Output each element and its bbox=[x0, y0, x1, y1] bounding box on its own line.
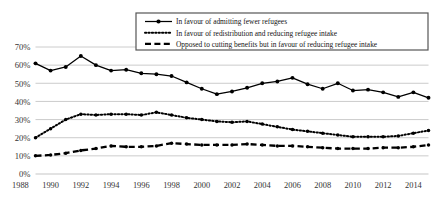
legend-label-1: In favour of redistribution and reducing… bbox=[176, 29, 338, 38]
data-point bbox=[154, 72, 158, 76]
data-point bbox=[215, 92, 219, 96]
x-axis-tick-label: 1992 bbox=[72, 181, 89, 190]
chart-container: 0%10%20%30%40%50%60%70%19881990199219941… bbox=[0, 0, 434, 197]
data-point bbox=[79, 112, 83, 116]
data-point bbox=[366, 88, 370, 92]
data-point bbox=[185, 142, 189, 146]
data-point bbox=[64, 65, 68, 69]
data-point bbox=[291, 128, 295, 132]
data-point bbox=[34, 136, 38, 140]
data-point bbox=[412, 145, 416, 149]
data-point bbox=[366, 135, 370, 139]
y-axis-tick-label: 40% bbox=[15, 97, 31, 107]
data-point bbox=[79, 149, 83, 153]
data-point bbox=[185, 80, 189, 84]
x-axis-tick-label: 1996 bbox=[133, 181, 150, 190]
y-axis-tick-label: 60% bbox=[15, 60, 31, 70]
data-point bbox=[306, 130, 310, 134]
data-point bbox=[34, 61, 38, 65]
data-point bbox=[170, 141, 174, 145]
data-point bbox=[427, 129, 431, 133]
data-point bbox=[170, 113, 174, 117]
data-point bbox=[306, 82, 310, 86]
data-point bbox=[291, 144, 295, 148]
legend-label-2: Opposed to cutting benefits but in favou… bbox=[176, 40, 378, 49]
data-point bbox=[155, 111, 159, 115]
data-point bbox=[336, 147, 340, 151]
x-axis-tick-label: 1994 bbox=[103, 181, 121, 190]
data-point bbox=[336, 133, 340, 137]
data-point bbox=[124, 112, 128, 116]
data-point bbox=[381, 90, 385, 94]
line-chart: 0%10%20%30%40%50%60%70%19881990199219941… bbox=[0, 0, 434, 197]
data-point bbox=[200, 118, 204, 122]
data-point bbox=[139, 71, 143, 75]
data-point bbox=[109, 144, 113, 148]
data-point bbox=[245, 120, 249, 124]
data-point bbox=[381, 135, 385, 139]
data-point bbox=[215, 120, 219, 124]
data-point bbox=[200, 87, 204, 91]
data-point bbox=[321, 87, 325, 91]
data-point bbox=[275, 80, 279, 84]
x-axis-tick-label: 2000 bbox=[193, 181, 210, 190]
data-point bbox=[49, 127, 53, 131]
y-axis-tick-label: 30% bbox=[15, 115, 31, 125]
x-axis-tick-label: 1988 bbox=[12, 181, 29, 190]
data-point bbox=[381, 146, 385, 150]
x-axis-tick-label: 2012 bbox=[375, 181, 392, 190]
data-point bbox=[79, 54, 83, 58]
x-axis-tick-label: 2010 bbox=[345, 181, 362, 190]
data-point bbox=[351, 147, 355, 151]
x-axis-tick-label: 2004 bbox=[254, 181, 272, 190]
legend-label-0: In favour of admitting fewer refugees bbox=[176, 17, 287, 26]
y-axis-tick-label: 0% bbox=[19, 169, 30, 179]
x-axis-tick-label: 2014 bbox=[405, 181, 423, 190]
y-axis-tick-label: 50% bbox=[15, 79, 31, 89]
data-point bbox=[155, 144, 159, 148]
data-point bbox=[260, 81, 264, 85]
data-point bbox=[351, 89, 355, 93]
data-point bbox=[140, 113, 144, 117]
data-point bbox=[366, 147, 370, 151]
data-point bbox=[34, 154, 38, 158]
data-point bbox=[124, 68, 128, 72]
y-axis-tick-label: 70% bbox=[15, 42, 31, 52]
data-point bbox=[140, 145, 144, 149]
series-line-1 bbox=[36, 112, 429, 137]
y-axis-tick-label: 10% bbox=[15, 151, 31, 161]
data-point bbox=[245, 86, 249, 90]
x-axis-tick-label: 2006 bbox=[284, 181, 301, 190]
x-axis-tick-label: 1990 bbox=[42, 181, 59, 190]
x-axis-tick-label: 2008 bbox=[314, 181, 331, 190]
data-point bbox=[291, 76, 295, 80]
data-point bbox=[351, 135, 355, 139]
legend-marker-0 bbox=[156, 19, 160, 23]
data-point bbox=[396, 95, 400, 99]
data-point bbox=[306, 145, 310, 149]
data-point bbox=[185, 116, 189, 120]
x-axis-tick-label: 1998 bbox=[163, 181, 180, 190]
data-point bbox=[64, 118, 68, 122]
data-point bbox=[94, 63, 98, 67]
data-point bbox=[412, 131, 416, 135]
data-point bbox=[124, 145, 128, 149]
data-point bbox=[94, 147, 98, 151]
data-point bbox=[397, 146, 401, 150]
data-point bbox=[109, 112, 113, 116]
y-axis-tick-label: 20% bbox=[15, 133, 31, 143]
data-point bbox=[230, 143, 234, 147]
data-point bbox=[397, 134, 401, 138]
data-point bbox=[170, 74, 174, 78]
data-point bbox=[49, 69, 53, 73]
data-point bbox=[245, 142, 249, 146]
data-point bbox=[411, 90, 415, 94]
data-point bbox=[427, 96, 431, 100]
x-axis-tick-label: 2002 bbox=[224, 181, 241, 190]
data-point bbox=[64, 151, 68, 155]
data-point bbox=[276, 125, 280, 129]
data-point bbox=[336, 81, 340, 85]
data-point bbox=[321, 146, 325, 150]
data-point bbox=[215, 143, 219, 147]
data-point bbox=[94, 113, 98, 117]
